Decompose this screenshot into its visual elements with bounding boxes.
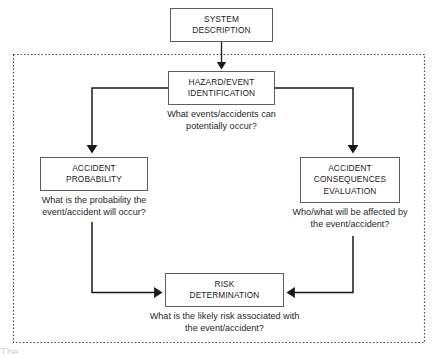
caption-hazard-event-identification: What events/accidents can potentially oc… [131,109,312,132]
caption-risk-determination: What is the likely risk associated with … [104,311,345,334]
node-risk-determination-line-1: RISK [215,279,235,291]
node-accident-probability[interactable]: ACCIDENT PROBABILITY [40,157,148,191]
node-hazard-event-identification[interactable]: HAZARD/EVENT IDENTIFICATION [168,71,275,105]
connector-probability-to-risk [92,222,158,293]
caption-accident-probability: What is the probability the event/accide… [5,195,183,218]
node-accident-probability-line-2: PROBABILITY [66,174,122,186]
caption-probability-line-2: event/accident will occur? [5,207,183,219]
node-hazard-event-identification-line-2: IDENTIFICATION [188,88,255,100]
node-hazard-event-identification-line-1: HAZARD/EVENT [189,77,255,89]
node-risk-determination-line-2: DETERMINATION [189,290,259,302]
caption-probability-line-1: What is the probability the [5,195,183,207]
caption-accident-consequences-evaluation: Who/what will be affected by the event/a… [260,207,439,230]
page-footer-artifact: The [0,347,439,354]
node-accident-consequences-evaluation[interactable]: ACCIDENT CONSEQUENCES EVALUATION [300,157,400,203]
node-accident-consequences-line-1: ACCIDENT [328,163,372,175]
node-accident-probability-line-1: ACCIDENT [72,163,116,175]
caption-risk-line-2: the event/accident? [104,323,345,335]
node-risk-determination[interactable]: RISK DETERMINATION [165,273,284,307]
caption-consequences-line-1: Who/what will be affected by [260,207,439,219]
connector-consequences-to-risk [291,236,353,293]
caption-hazard-line-1: What events/accidents can [131,109,312,121]
node-system-description-line-1: SYSTEM [204,14,239,26]
node-system-description[interactable]: SYSTEM DESCRIPTION [170,8,273,42]
node-accident-consequences-line-3: EVALUATION [324,186,377,198]
caption-consequences-line-2: the event/accident? [260,219,439,231]
caption-risk-line-1: What is the likely risk associated with [104,311,345,323]
page-footer-artifact-text: The [0,347,19,354]
node-accident-consequences-line-2: CONSEQUENCES [314,174,386,186]
node-system-description-line-2: DESCRIPTION [192,25,250,37]
diagram-canvas: SYSTEM DESCRIPTION HAZARD/EVENT IDENTIFI… [0,0,439,354]
caption-hazard-line-2: potentially occur? [131,121,312,133]
